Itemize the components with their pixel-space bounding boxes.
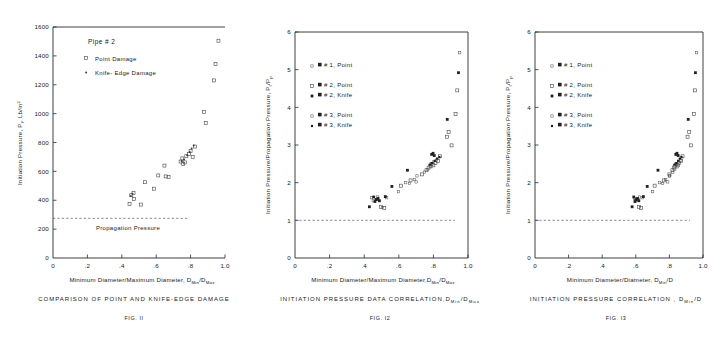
y-tick-label: 1400 xyxy=(34,52,49,59)
fig-11-y-axis-title: Initiation Pressure, PI, Lb/in2 xyxy=(16,101,25,186)
x-tick-label: .2 xyxy=(327,262,333,269)
data-point xyxy=(157,174,160,177)
data-point xyxy=(416,175,418,177)
data-point xyxy=(128,202,131,205)
legend-label: # 3, Point xyxy=(564,112,592,118)
legend-label: # 2, Point xyxy=(564,82,592,88)
fig-13-caption: INITIATION PRESSURE CORRELATION , DMin/D xyxy=(530,296,702,304)
fig-13-legend: # 1, Point# 2, Point# 2, Knife# 3, Point… xyxy=(551,62,593,128)
legend-label-knife-damage: Knife- Edge Damage xyxy=(95,70,156,76)
figure-13: 0123456 0.2.4.6.81.0 # 1, Point# 2, Poin… xyxy=(490,0,725,339)
data-point xyxy=(689,144,692,147)
x-tick-label: .6 xyxy=(633,262,639,269)
x-tick-label: .8 xyxy=(431,262,437,269)
data-point xyxy=(672,171,674,173)
data-point xyxy=(459,52,461,54)
legend-marker xyxy=(311,115,313,117)
fig-11-x-ticks: 0.2.4.6.81.0 xyxy=(51,255,230,270)
x-tick-label: 0 xyxy=(51,262,55,269)
data-point xyxy=(217,39,220,42)
fig-11-caption: COMPARISON OF POINT AND KNIFE-EDGE DAMAG… xyxy=(38,296,229,302)
data-point xyxy=(167,176,170,179)
y-tick-label: 0 xyxy=(527,254,531,261)
fig-11-axes xyxy=(53,27,225,258)
y-tick-label: 3 xyxy=(527,141,531,148)
legend-pipe-glyph xyxy=(558,113,562,117)
legend-marker xyxy=(551,85,554,88)
data-point xyxy=(203,111,206,114)
data-point xyxy=(675,162,677,164)
legend-pipe-glyph xyxy=(558,83,562,87)
data-point xyxy=(140,203,143,206)
data-point xyxy=(456,89,459,92)
legend-pipe-glyph xyxy=(558,123,562,127)
data-point xyxy=(663,179,666,182)
y-tick-label: 2 xyxy=(287,179,291,186)
x-tick-label: .8 xyxy=(188,262,194,269)
data-point xyxy=(368,205,371,208)
data-point xyxy=(694,71,697,74)
fig-13-x-ticks: 0.2.4.6.81.0 xyxy=(533,255,708,270)
data-point xyxy=(406,169,409,172)
data-point xyxy=(677,154,680,157)
y-tick-label: 400 xyxy=(38,196,49,203)
fig-11-canvas: 02004006008001000120014001600 0.2.4.6.81… xyxy=(0,0,250,339)
x-tick-label: .6 xyxy=(396,262,402,269)
x-tick-label: 0 xyxy=(293,262,297,269)
y-tick-label: 1 xyxy=(287,217,291,224)
data-point xyxy=(642,195,645,198)
y-tick-label: 600 xyxy=(38,168,49,175)
fig-11-x-axis-title: Minimum Diameter/Maximum Diameter, DMin/… xyxy=(69,276,215,285)
figure-11: 02004006008001000120014001600 0.2.4.6.81… xyxy=(0,0,250,339)
x-tick-label: .8 xyxy=(667,262,673,269)
legend-marker xyxy=(311,85,314,88)
propagation-pressure-label: Propagation Pressure xyxy=(96,225,160,231)
fig-12-caption: INITIATION PRESSURE DATA CORRELATION,DMi… xyxy=(280,296,480,304)
x-tick-label: 0 xyxy=(533,262,537,269)
legend-pipe-glyph xyxy=(318,113,322,117)
data-point xyxy=(130,195,132,197)
data-point xyxy=(204,122,207,125)
legend-label: # 3, Point xyxy=(324,112,352,118)
fig-12-y-ticks: 0123456 xyxy=(287,28,298,261)
fig-11-data-points xyxy=(128,39,220,206)
legend-label: # 3, Knife xyxy=(564,122,593,128)
data-point xyxy=(191,155,194,158)
data-point xyxy=(454,113,457,116)
fig-13-y-ticks: 0123456 xyxy=(527,28,538,261)
data-point xyxy=(646,185,649,188)
y-tick-label: 5 xyxy=(287,66,291,73)
fig-13-canvas: 0123456 0.2.4.6.81.0 # 1, Point# 2, Poin… xyxy=(490,0,725,339)
data-point xyxy=(662,182,664,184)
data-point xyxy=(399,184,402,187)
data-point xyxy=(131,193,133,195)
data-point xyxy=(193,145,195,147)
data-point xyxy=(186,154,188,156)
y-tick-label: 4 xyxy=(527,104,531,111)
legend-pipe-glyph xyxy=(558,93,562,97)
y-tick-label: 0 xyxy=(45,254,49,261)
y-tick-label: 200 xyxy=(38,225,49,232)
x-tick-label: .4 xyxy=(361,262,367,269)
data-point xyxy=(372,196,375,199)
fig-12-legend: # 1, Point# 2, Point# 2, Knife# 3, Point… xyxy=(311,62,353,128)
data-point xyxy=(446,118,449,121)
data-point xyxy=(378,199,381,202)
fig-13-data-points xyxy=(631,52,698,210)
legend-marker xyxy=(551,95,554,98)
legend-label: # 1, Point xyxy=(564,62,592,68)
data-point xyxy=(667,181,669,183)
data-point xyxy=(413,179,415,181)
data-point xyxy=(405,182,407,184)
y-tick-label: 800 xyxy=(38,139,49,146)
fig-12-x-ticks: 0.2.4.6.81.0 xyxy=(293,255,473,270)
legend-title-pipe: Pipe # 2 xyxy=(88,38,115,46)
data-point xyxy=(657,169,660,172)
legend-pipe-glyph xyxy=(318,83,322,87)
legend-pipe-glyph xyxy=(558,63,562,67)
figure-12: 0123456 0.2.4.6.81.0 # 1, Point# 2, Poin… xyxy=(250,0,490,339)
data-point xyxy=(653,184,656,187)
data-point xyxy=(651,191,653,193)
y-tick-label: 1600 xyxy=(34,23,49,30)
data-point xyxy=(438,156,440,158)
